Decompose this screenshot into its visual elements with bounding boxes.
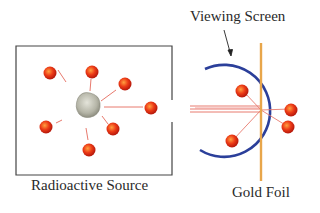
alpha-particle-icon xyxy=(226,135,239,148)
gold-foil-label: Gold Foil xyxy=(232,184,290,201)
radioactive-source-label: Radioactive Source xyxy=(31,177,148,194)
alpha-particle-icon xyxy=(107,123,120,136)
radioactive-source-icon xyxy=(76,93,100,118)
alpha-beam xyxy=(190,106,261,112)
alpha-particle-icon xyxy=(236,85,249,98)
alpha-particle-icon xyxy=(119,78,132,91)
screen-pointer-arrow xyxy=(224,30,233,56)
alpha-particle-icon xyxy=(285,104,298,117)
viewing-screen-label: Viewing Screen xyxy=(190,8,285,25)
alpha-particle-icon xyxy=(40,121,53,134)
alpha-particle-icon xyxy=(86,66,99,79)
alpha-particle-icon xyxy=(83,144,96,157)
alpha-particle-icon xyxy=(145,102,158,115)
alpha-particle-icon xyxy=(282,121,295,134)
alpha-particle-icon xyxy=(44,67,57,80)
